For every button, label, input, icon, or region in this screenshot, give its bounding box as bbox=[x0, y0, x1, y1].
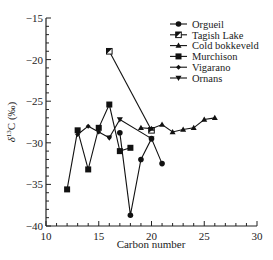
x-tick-label: 10 bbox=[41, 230, 53, 242]
legend-label: Murchison bbox=[192, 51, 238, 62]
legend-item: Tagish Lake bbox=[170, 30, 244, 41]
legend-label: Vigarano bbox=[192, 62, 230, 73]
chart: −40−35−30−25−20−151015202530 OrgueilTagi… bbox=[0, 0, 273, 260]
legend-label: Orgueil bbox=[192, 19, 224, 30]
x-tick-label: 30 bbox=[252, 230, 264, 242]
x-tick-label: 15 bbox=[93, 230, 105, 242]
legend-label: Cold bokkeveld bbox=[192, 40, 260, 51]
legend-label: Ornans bbox=[192, 73, 222, 84]
y-tick-label: −35 bbox=[26, 178, 44, 190]
series-vigarano bbox=[75, 124, 112, 141]
legend-label: Tagish Lake bbox=[192, 30, 244, 41]
legend-item: Cold bokkeveld bbox=[170, 40, 260, 51]
x-axis-label: Carbon number bbox=[117, 238, 186, 250]
series-orgueil bbox=[117, 130, 165, 218]
x-tick-label: 25 bbox=[199, 230, 211, 242]
legend-item: Orgueil bbox=[170, 19, 224, 30]
y-tick-label: −20 bbox=[26, 54, 44, 66]
y-tick-label: −15 bbox=[26, 12, 44, 24]
legend-item: Ornans bbox=[170, 73, 222, 84]
legend-item: Murchison bbox=[170, 51, 238, 62]
y-tick-label: −25 bbox=[26, 95, 44, 107]
y-tick-label: −30 bbox=[26, 137, 44, 149]
series-murchison bbox=[64, 102, 133, 193]
series-tagish-lake bbox=[107, 48, 155, 133]
legend: OrgueilTagish LakeCold bokkeveldMurchiso… bbox=[170, 19, 260, 84]
legend-item: Vigarano bbox=[170, 62, 230, 73]
y-axis-label: δ13C (‰) bbox=[5, 101, 18, 142]
